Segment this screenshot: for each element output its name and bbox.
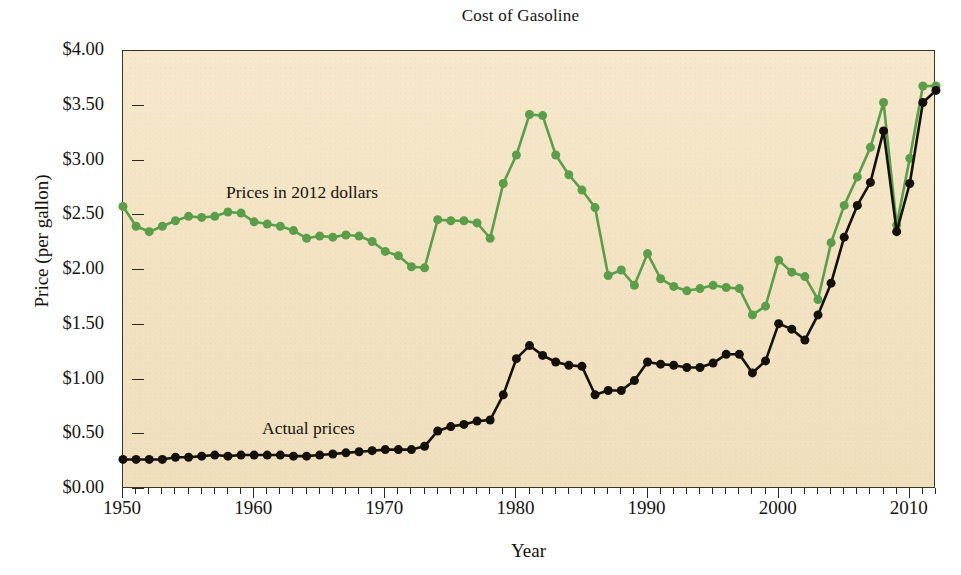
data-point	[420, 442, 429, 451]
x-axis-minor-tick	[227, 488, 228, 494]
x-axis-minor-tick	[869, 488, 870, 494]
data-point	[132, 455, 141, 464]
y-axis-tick-label: $2.00	[22, 259, 104, 277]
x-axis-minor-tick	[738, 488, 739, 494]
x-axis-minor-tick	[214, 488, 215, 494]
data-point	[787, 268, 796, 277]
data-point	[630, 376, 639, 385]
annotation-inflation-adjusted: Prices in 2012 dollars	[226, 182, 378, 203]
x-axis-minor-tick	[489, 488, 490, 494]
x-axis-minor-tick	[699, 488, 700, 494]
x-axis-minor-tick	[594, 488, 595, 494]
data-point	[853, 201, 862, 210]
x-axis-title: Year	[122, 540, 935, 562]
data-point	[787, 325, 796, 334]
data-point	[263, 451, 272, 460]
x-axis-minor-tick	[148, 488, 149, 494]
data-point	[315, 232, 324, 241]
x-axis-minor-tick	[358, 488, 359, 494]
data-point	[564, 170, 573, 179]
x-axis-minor-tick	[725, 488, 726, 494]
data-point	[827, 238, 836, 247]
data-point	[197, 452, 206, 461]
x-axis-minor-tick	[542, 488, 543, 494]
data-point	[564, 361, 573, 370]
x-axis-minor-tick	[568, 488, 569, 494]
data-point	[905, 179, 914, 188]
data-point	[276, 451, 285, 460]
data-point	[381, 445, 390, 454]
data-point	[119, 202, 128, 211]
chart-title: Cost of Gasoline	[0, 6, 961, 26]
data-point	[512, 151, 521, 160]
x-axis-minor-tick	[188, 488, 189, 494]
data-point	[840, 233, 849, 242]
gasoline-price-chart-figure: Cost of Gasoline Price (per gallon) $0.0…	[0, 0, 961, 575]
data-point	[394, 251, 403, 260]
data-point	[446, 216, 455, 225]
x-axis-minor-tick	[161, 488, 162, 494]
data-point	[368, 237, 377, 246]
data-point	[591, 203, 600, 212]
data-point	[735, 350, 744, 359]
data-point	[171, 453, 180, 462]
data-point	[577, 362, 586, 371]
data-point	[761, 302, 770, 311]
data-point	[210, 212, 219, 221]
x-axis-minor-tick	[135, 488, 136, 494]
data-point	[315, 451, 324, 460]
data-point	[709, 359, 718, 368]
data-point	[656, 274, 665, 283]
x-axis-minor-tick	[620, 488, 621, 494]
x-axis-tick-labels: 1950196019701980199020002010	[0, 497, 961, 527]
data-point	[604, 386, 613, 395]
data-point	[328, 233, 337, 242]
x-axis-minor-tick	[712, 488, 713, 494]
x-axis-minor-tick	[633, 488, 634, 494]
data-point	[813, 295, 822, 304]
data-point	[473, 218, 482, 227]
data-point	[368, 446, 377, 455]
data-point	[355, 447, 364, 456]
x-axis-minor-tick	[817, 488, 818, 494]
data-point	[669, 282, 678, 291]
x-axis-minor-tick	[686, 488, 687, 494]
data-point	[682, 363, 691, 372]
data-point	[486, 416, 495, 425]
x-axis-minor-tick	[266, 488, 267, 494]
data-point	[866, 178, 875, 187]
data-point	[643, 357, 652, 366]
x-axis-minor-tick	[306, 488, 307, 494]
x-axis-tick-label: 2000	[733, 497, 823, 519]
data-point	[591, 390, 600, 399]
x-axis-minor-tick	[397, 488, 398, 494]
data-point	[892, 227, 901, 236]
series-line-actual	[123, 90, 936, 459]
x-axis-minor-tick	[279, 488, 280, 494]
data-point	[617, 266, 626, 275]
x-axis-minor-tick	[476, 488, 477, 494]
y-axis-tick-mark	[132, 214, 144, 215]
x-axis-minor-tick	[896, 488, 897, 494]
data-point	[577, 186, 586, 195]
x-axis-minor-tick	[292, 488, 293, 494]
data-point	[341, 448, 350, 457]
data-point	[695, 363, 704, 372]
x-axis-minor-tick	[240, 488, 241, 494]
series-actual	[119, 86, 941, 464]
x-axis-minor-tick	[883, 488, 884, 494]
data-point	[433, 426, 442, 435]
data-point	[289, 226, 298, 235]
y-axis-tick-mark	[132, 433, 144, 434]
y-axis-tick-mark	[132, 269, 144, 270]
x-axis-minor-tick	[345, 488, 346, 494]
x-axis-minor-tick	[463, 488, 464, 494]
data-point	[394, 445, 403, 454]
x-axis-minor-tick	[791, 488, 792, 494]
data-point	[774, 319, 783, 328]
data-point	[276, 222, 285, 231]
x-axis-minor-tick	[804, 488, 805, 494]
data-point	[223, 207, 232, 216]
data-point	[473, 417, 482, 426]
x-axis-minor-tick	[332, 488, 333, 494]
